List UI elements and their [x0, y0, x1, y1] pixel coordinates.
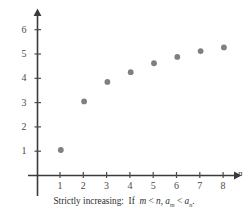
figure-scatter-strictly-increasing: 1 2 3 4 5 6 1 2 3 4 5 6 7 8 n Strictly i…: [0, 0, 248, 214]
data-point: [151, 60, 157, 66]
y-tick-label: 4: [18, 73, 30, 83]
x-tick-label: 5: [147, 181, 159, 191]
data-point: [221, 45, 227, 51]
caption-lt-2: <: [177, 196, 182, 206]
caption-lt-1: <: [148, 196, 153, 206]
data-point: [198, 48, 204, 54]
caption-period: .: [192, 196, 194, 206]
caption-lead: Strictly increasing:: [53, 196, 124, 206]
y-tick-label: 1: [18, 146, 30, 156]
caption-var-m: m: [139, 196, 146, 206]
x-tick-label: 4: [124, 181, 136, 191]
y-tick-label: 5: [18, 49, 30, 59]
data-point: [81, 98, 87, 104]
y-tick-label: 3: [18, 98, 30, 108]
x-tick-label: 8: [217, 181, 229, 191]
y-tick-label: 2: [18, 122, 30, 132]
caption-if: If: [129, 196, 135, 206]
figure-caption: Strictly increasing: If m < n, am < an.: [0, 196, 248, 208]
x-tick-label: 3: [101, 181, 113, 191]
caption-sub-m: m: [170, 201, 175, 208]
data-point: [174, 54, 180, 60]
x-tick-label: 2: [77, 181, 89, 191]
caption-term-am: am: [165, 196, 174, 206]
data-point-series: [58, 45, 227, 153]
x-axis-name: n: [238, 168, 243, 178]
data-point: [58, 147, 64, 153]
data-point: [105, 79, 111, 85]
y-tick-label: 6: [18, 25, 30, 35]
caption-var-n: n,: [156, 196, 163, 206]
x-tick-label: 7: [194, 181, 206, 191]
x-tick-label: 1: [54, 181, 66, 191]
x-tick-label: 6: [171, 181, 183, 191]
data-point: [128, 69, 134, 75]
